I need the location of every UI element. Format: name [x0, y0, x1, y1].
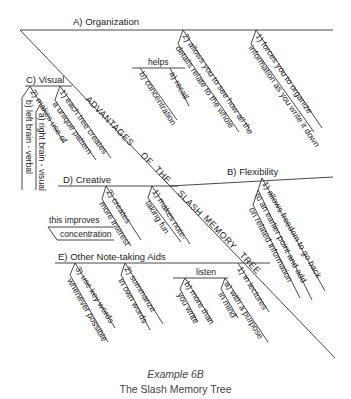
branch-c-label: C) Visual	[26, 75, 64, 85]
caption-subtitle: The Slash Memory Tree	[0, 383, 351, 395]
caption-title: Example 6B	[0, 368, 351, 380]
branch-e-label: E) Other Note-taking Aids	[58, 252, 166, 262]
branch-a-sub-label: helps	[148, 58, 169, 67]
branch-a-label: A) Organization	[73, 17, 139, 27]
tree-lines	[0, 0, 351, 399]
branch-e-sub-label: listen	[196, 268, 216, 277]
branch-c-sub-item-left-brain: b) left brain - verbal	[24, 100, 33, 174]
branch-d-sub-item: concentration	[60, 230, 112, 239]
branch-b-label: B) Flexibility	[227, 167, 278, 177]
branch-d-label: D) Creative	[63, 175, 111, 185]
branch-d-sub-label: this improves	[49, 216, 100, 225]
branch-c-sub-item-right-brain: a) right brain - visual	[37, 113, 46, 191]
